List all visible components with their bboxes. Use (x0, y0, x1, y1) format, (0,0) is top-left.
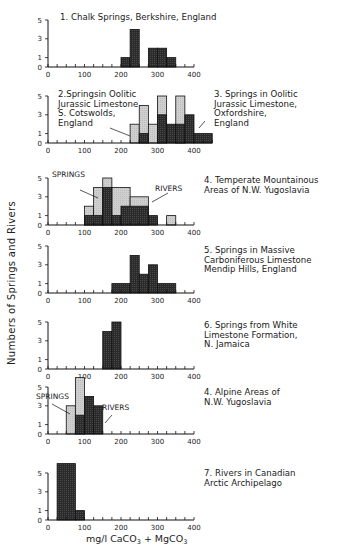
x-tick-label: 300 (151, 147, 164, 155)
x-tick-label: 0 (46, 229, 50, 237)
y-tick-label: 1 (38, 507, 42, 515)
leader-arrow (110, 128, 130, 136)
histogram-bar-light (66, 406, 75, 434)
panel-title: Arctic Archipelago (204, 478, 282, 488)
x-tick-label: 400 (187, 297, 200, 305)
x-tick-label: 400 (187, 438, 200, 446)
panel-title: Areas of N.W. Yugoslavia (204, 185, 309, 195)
y-tick-label: 5 (38, 93, 42, 101)
x-tick-label: 200 (114, 229, 127, 237)
x-tick-label: 400 (187, 373, 200, 381)
histogram-figure: 010020030040001351. Chalk Springs, Berks… (0, 0, 338, 556)
histogram-bar-dark (112, 322, 121, 369)
x-tick-label: 100 (78, 229, 91, 237)
histogram-panel-2-3: 010020030040001352.Springsin OoliticJura… (38, 89, 298, 155)
y-tick-label: 0 (38, 517, 42, 525)
x-tick-label: 300 (151, 524, 164, 532)
x-tick-label: 300 (151, 297, 164, 305)
x-tick-label: 300 (151, 71, 164, 79)
y-tick-label: 1 (38, 421, 42, 429)
y-tick-label: 1 (38, 356, 42, 364)
x-tick-label: 0 (46, 438, 50, 446)
y-tick-label: 3 (38, 488, 42, 496)
histogram-bar-dark (85, 396, 94, 434)
x-tick-label: 100 (78, 438, 91, 446)
y-tick-label: 5 (38, 384, 42, 392)
histogram-panel-4a: 010020030040001354. Temperate Mountainou… (38, 170, 320, 237)
histogram-bar-dark (130, 255, 139, 293)
panel-title: 7. Rivers in Canadian (204, 468, 296, 478)
y-tick-label: 5 (38, 470, 42, 478)
histogram-bar-dark (158, 115, 167, 143)
panel-title: 1. Chalk Springs, Berkshire, England (60, 12, 216, 22)
x-tick-label: 200 (114, 524, 127, 532)
panel-title: 4. Temperate Mountainous (204, 175, 319, 185)
x-tick-label: 0 (46, 71, 50, 79)
x-tick-label: 100 (78, 71, 91, 79)
y-tick-label: 0 (38, 64, 42, 72)
histogram-bar-dark (103, 331, 112, 369)
x-tick-label: 0 (46, 147, 50, 155)
panel-title: 2.Springsin Oolitic (58, 89, 137, 99)
y-tick-label: 3 (38, 193, 42, 201)
y-tick-label: 0 (38, 366, 42, 374)
y-tick-label: 5 (38, 175, 42, 183)
panel-title: 5. Springs in Massive (204, 245, 295, 255)
histogram-bar-dark (112, 216, 121, 225)
y-tick-label: 3 (38, 111, 42, 119)
x-tick-label: 300 (151, 438, 164, 446)
y-tick-label: 1 (38, 280, 42, 288)
panel-title: Mendip Hills, England (204, 264, 297, 274)
leader-arrow (105, 415, 112, 423)
series-label-rivers: RIVERS (155, 184, 183, 193)
panel-title: Jurassic Limestone (57, 99, 138, 109)
histogram-bar-light (167, 216, 176, 225)
histogram-bar-dark (176, 124, 185, 143)
panel-title-secondary: Oxfordshire, (214, 108, 267, 118)
x-tick-label: 0 (46, 373, 50, 381)
histogram-bar-light (148, 124, 157, 143)
histogram-bar-dark (185, 115, 194, 143)
x-tick-label: 200 (114, 297, 127, 305)
x-axis-label: mg/l CaCO3 + MgCO3 (86, 533, 187, 546)
series-label-springs: SPRINGS (52, 170, 85, 179)
x-tick-label: 200 (114, 373, 127, 381)
panels-group: 010020030040001351. Chalk Springs, Berks… (36, 12, 319, 532)
histogram-panel-7: 010020030040001357. Rivers in Canadian A… (38, 464, 296, 532)
x-tick-label: 200 (114, 71, 127, 79)
panel-title-secondary: England (214, 118, 249, 128)
histogram-bar-dark (139, 274, 148, 293)
histogram-bar-dark (121, 58, 130, 67)
histogram-bar-dark (121, 206, 148, 225)
y-tick-label: 5 (38, 319, 42, 327)
series-label-rivers: RIVERS (102, 403, 130, 412)
x-tick-label: 100 (78, 524, 91, 532)
histogram-bar-dark (167, 58, 176, 67)
histogram-bar-light (130, 124, 139, 143)
histogram-bar-dark (148, 48, 157, 67)
histogram-panel-6: 010020030040001356. Springs from White L… (38, 319, 298, 382)
y-tick-label: 3 (38, 402, 42, 410)
histogram-bar-dark (167, 124, 176, 143)
y-tick-label: 0 (38, 140, 42, 148)
x-tick-label: 0 (46, 524, 50, 532)
y-tick-label: 5 (38, 243, 42, 251)
x-tick-label: 300 (151, 229, 164, 237)
histogram-panel-1: 010020030040001351. Chalk Springs, Berks… (38, 12, 217, 79)
panel-title: S. Cotswolds, (58, 108, 115, 118)
panel-title-secondary: Jurassic Limestone, (213, 99, 297, 109)
histogram-bar-dark (103, 187, 112, 225)
x-tick-label: 400 (187, 229, 200, 237)
y-tick-label: 3 (38, 337, 42, 345)
panel-title-secondary: 3. Springs in Oolitic (214, 89, 298, 99)
panel-title: Carboniferous Limestone (204, 255, 312, 265)
histogram-bar-dark (139, 134, 148, 143)
x-tick-label: 200 (114, 147, 127, 155)
leader-arrow (152, 193, 168, 202)
y-tick-label: 3 (38, 35, 42, 43)
panel-title: Limestone Formation, (204, 330, 298, 340)
x-tick-label: 0 (46, 297, 50, 305)
series-label-springs: SPRINGS (36, 392, 69, 401)
histogram-bar-dark (148, 216, 157, 225)
y-tick-label: 1 (38, 54, 42, 62)
